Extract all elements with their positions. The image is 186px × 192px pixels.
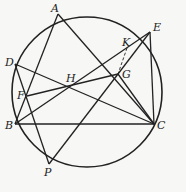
point-label-A: A — [50, 2, 59, 15]
circle-figure: AEDBCPHGFK — [0, 0, 186, 192]
point-label-F: F — [16, 89, 25, 102]
segment-AB — [15, 14, 58, 124]
point-label-D: D — [4, 56, 14, 69]
point-label-E: E — [152, 21, 161, 34]
point-label-K: K — [121, 36, 131, 49]
point-label-B: B — [4, 119, 13, 132]
segment-EC — [150, 32, 154, 124]
geometry-diagram: AEDBCPHGFK — [0, 0, 186, 192]
point-label-P: P — [43, 166, 52, 179]
point-label-G: G — [122, 68, 131, 81]
segment-AC — [58, 14, 154, 124]
point-label-C: C — [157, 119, 166, 132]
segment-PG — [49, 74, 118, 164]
point-label-H: H — [65, 72, 76, 85]
